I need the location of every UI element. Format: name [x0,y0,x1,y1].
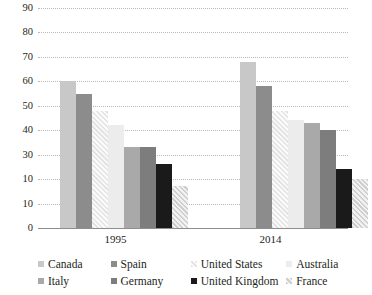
chart-legend: CanadaSpainUnited StatesAustraliaItalyGe… [38,255,353,289]
legend-swatch-icon [111,278,117,284]
legend-item-spain[interactable]: Spain [111,258,191,270]
legend-row: ItalyGermanyUnited KingdomFrance [38,272,353,289]
legend-label: Germany [121,275,164,287]
legend-row: CanadaSpainUnited StatesAustralia [38,255,353,272]
x-axis-label-2014: 2014 [193,231,348,247]
bar-spain-2014 [256,86,272,228]
y-axis-tick-label: 80 [1,27,33,37]
bar-australia-2014 [288,120,304,228]
legend-label: United Kingdom [201,275,279,287]
legend-item-france[interactable]: France [286,275,353,287]
bar-france-1995 [172,186,188,228]
y-axis-tick-label: 90 [1,3,33,13]
legend-label: Italy [48,275,69,287]
legend-item-germany[interactable]: Germany [111,275,191,287]
legend-swatch-icon [191,278,197,284]
legend-swatch-icon [38,278,44,284]
bar-united-kingdom-2014 [336,169,352,228]
y-axis-tick-label: 60 [1,76,33,86]
legend-label: Spain [121,258,147,270]
legend-label: Australia [296,258,338,270]
legend-label: France [296,275,327,287]
legend-item-australia[interactable]: Australia [286,258,353,270]
y-axis-tick-label: 70 [1,52,33,62]
y-axis-tick-label: 50 [1,101,33,111]
x-axis-category-labels: 19952014 [38,231,348,247]
legend-item-united-kingdom[interactable]: United Kingdom [191,275,286,287]
legend-item-united-states[interactable]: United States [191,258,286,270]
bar-united-states-1995 [92,111,108,228]
legend-label: United States [201,258,263,270]
bar-australia-1995 [108,125,124,228]
legend-label: Canada [48,258,82,270]
y-axis-tick-label: 0 [1,223,33,233]
legend-swatch-icon [38,261,44,267]
x-axis-label-1995: 1995 [38,231,193,247]
legend-item-canada[interactable]: Canada [38,258,111,270]
legend-swatch-icon [286,261,292,267]
bar-group-2014 [214,8,372,228]
bar-groups [38,8,348,228]
legend-swatch-icon [286,278,292,284]
bar-united-kingdom-1995 [156,164,172,228]
legend-swatch-icon [191,261,197,267]
bar-germany-2014 [320,130,336,228]
bar-group-1995 [38,8,214,228]
bar-canada-2014 [240,62,256,228]
plot-area: 0101030405060708090 [38,8,348,228]
bar-canada-1995 [60,81,76,228]
y-axis-tick-label: 40 [1,125,33,135]
bar-italy-2014 [304,123,320,228]
y-axis-tick-label: 30 [1,150,33,160]
bar-germany-1995 [140,147,156,228]
bar-italy-1995 [124,147,140,228]
legend-swatch-icon [111,261,117,267]
axis-baseline [38,228,348,229]
bar-spain-1995 [76,94,92,228]
y-axis-tick-label: 10 [1,174,33,184]
y-axis-tick-label: 10 [1,199,33,209]
bar-france-2014 [352,179,368,228]
legend-item-italy[interactable]: Italy [38,275,111,287]
bar-united-states-2014 [272,111,288,228]
